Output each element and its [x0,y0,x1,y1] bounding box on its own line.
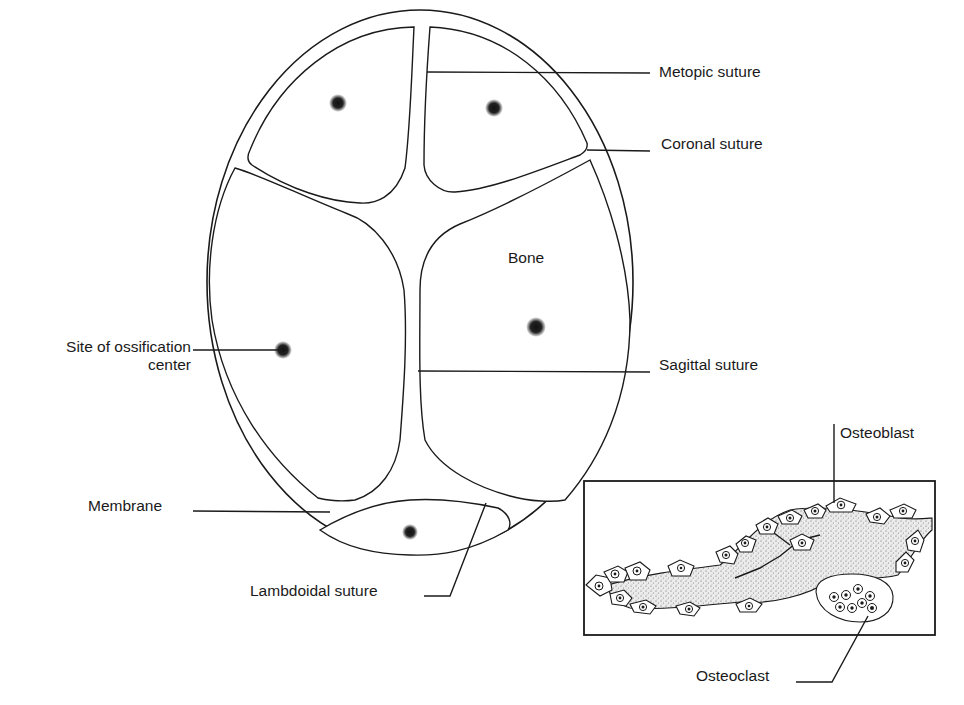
left-frontal-bone [248,27,414,203]
skull [207,10,633,555]
ossification-center-occipital [402,524,418,540]
label-metopic-suture: Metopic suture [659,63,761,81]
label-lambdoidal-suture: Lambdoidal suture [250,582,378,600]
label-sagittal-suture: Sagittal suture [659,356,758,374]
label-site-of-ossification-line1: Site of ossification [66,338,191,355]
label-bone: Bone [508,249,544,267]
bone-tissue-inset [584,424,935,682]
ossification-center-right-frontal [485,99,503,117]
ossification-center-left-frontal [329,94,347,112]
label-osteoclast: Osteoclast [696,667,769,685]
left-parietal-bone [209,168,405,501]
ossification-center-right-parietal [526,317,546,337]
label-membrane: Membrane [88,497,162,515]
label-site-of-ossification-line2: center [148,356,191,373]
label-site-of-ossification: Site of ossification center [25,338,191,374]
right-parietal-bone [420,160,630,501]
label-coronal-suture: Coronal suture [661,135,763,153]
right-frontal-bone [424,27,587,192]
label-osteoblast: Osteoblast [840,424,914,442]
